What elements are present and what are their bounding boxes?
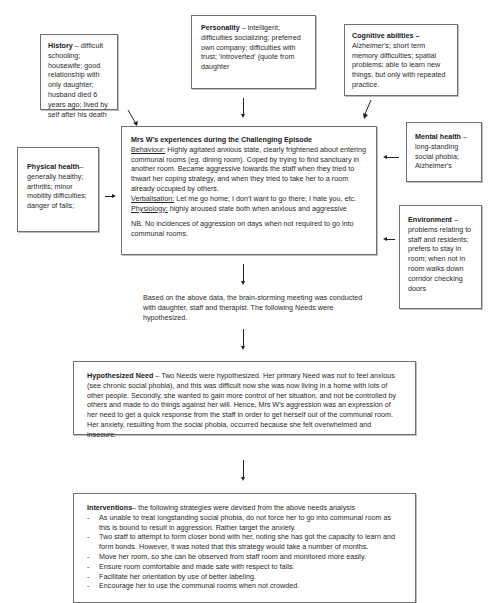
arrow-needs-to-interventions-head: [241, 477, 245, 481]
episode-title: Mrs W's experiences during the Challengi…: [131, 135, 312, 144]
arrow-episode-to-meeting-head: [241, 281, 245, 285]
intervention-item: Encourage her to use the communal rooms …: [87, 581, 402, 591]
arrow-mental-line: [387, 157, 399, 158]
hypothesized-need-box: Hypothesized Need – Two Needs were hypot…: [73, 361, 416, 435]
cognitive-abilities-box: Cognitive abilities – Alzheimer's; short…: [344, 24, 458, 96]
arrow-history-to-episode: [125, 108, 141, 128]
intervention-item: As unable to treat longstanding social p…: [87, 513, 402, 533]
physical-title: Physical health: [27, 162, 79, 171]
meeting-text: Based on the above data, the brain-storm…: [143, 293, 363, 322]
personality-title: Personality: [201, 23, 240, 32]
physiology-text: highly aroused state both when anxious a…: [168, 204, 347, 213]
personality-box: Personality – intelligent; difficulties …: [191, 15, 316, 89]
interventions-list: As unable to treat longstanding social p…: [87, 513, 402, 591]
history-title: History: [48, 41, 73, 50]
challenging-episode-box: Mrs W's experiences during the Challengi…: [121, 126, 377, 255]
behaviour-label: Behaviour:: [131, 145, 165, 154]
mental-title: Mental health: [415, 132, 461, 141]
arrow-episode-to-meeting-line: [243, 264, 244, 282]
arrow-meeting-to-needs-head: [241, 346, 245, 350]
verbalisation-text: Let me go home; I don't want to go there…: [174, 194, 356, 203]
environment-title: Environment: [408, 215, 452, 224]
intervention-item: Facilitate her orientation by use of bet…: [87, 572, 402, 582]
arrow-meeting-to-needs-line: [243, 329, 244, 347]
environment-box: Environment – problems relating to staff…: [399, 205, 482, 309]
behaviour-text: Highly agitated anxious state, clearly f…: [131, 145, 366, 193]
arrow-needs-to-interventions-line: [243, 460, 244, 478]
interventions-intro: – the following strategies were devised …: [132, 503, 355, 512]
arrow-cognitive-to-episode: [360, 99, 376, 121]
environment-text: – problems relating to staff and residen…: [408, 215, 471, 293]
physical-health-box: Physical health– generally healthy; arth…: [17, 147, 99, 232]
arrow-personality-head: [241, 114, 245, 118]
history-text: – difficult schooling; housewife; good r…: [48, 41, 108, 119]
needs-title: Hypothesized Need: [87, 371, 153, 380]
cognitive-text: Alzheimer's; short term memory difficult…: [352, 41, 446, 89]
interventions-box: Interventions– the following strategies …: [73, 493, 416, 603]
arrow-personality-line: [243, 98, 244, 115]
intervention-item: Ensure room comfortable and made safe wi…: [87, 562, 402, 572]
meeting-text-content: Based on the above data, the brain-storm…: [143, 293, 362, 322]
verbalisation-label: Verbalisation:: [131, 194, 174, 203]
history-box: History – difficult schooling; housewife…: [40, 34, 118, 110]
interventions-title: Interventions: [87, 503, 132, 512]
arrow-environment-line: [387, 239, 395, 240]
intervention-item: Two staff to attempt to form closer bond…: [87, 532, 402, 552]
mental-health-box: Mental health – long-standing social pho…: [406, 122, 482, 182]
needs-text: – Two Needs were hypothesized. Her prima…: [87, 371, 396, 439]
episode-nb: NB. No incidences of aggression on days …: [131, 219, 367, 239]
intervention-item: Move her room, so she can be observed fr…: [87, 552, 402, 562]
cognitive-title: Cognitive abilities –: [352, 31, 420, 40]
arrow-physical-head: [112, 194, 116, 198]
physiology-label: Physiology:: [131, 204, 168, 213]
